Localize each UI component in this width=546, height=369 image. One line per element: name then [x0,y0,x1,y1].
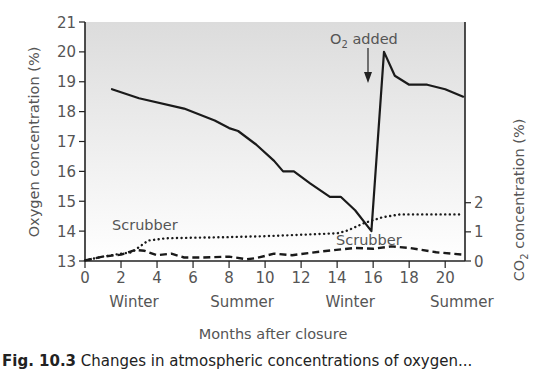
season-label: Summer [210,293,274,311]
y-tick-label: 15 [57,193,76,211]
x-tick-label: 4 [152,269,162,287]
x-tick-label: 14 [328,269,347,287]
season-label: Winter [109,293,159,311]
x-tick-label: 18 [400,269,419,287]
x-tick-label: 20 [436,269,455,287]
y-tick-label: 20 [57,43,76,61]
x-tick-label: 8 [224,269,234,287]
y-axis-title-left: Oxygen concentration (%) [26,47,42,238]
figure-caption: Fig. 10.3 Changes in atmospheric concent… [2,352,472,369]
x-tick-label: 10 [256,269,275,287]
y2-tick-label: 0 [474,253,484,271]
x-tick-label: 12 [292,269,311,287]
x-tick-label: 2 [116,269,126,287]
y-tick-label: 13 [57,253,76,271]
x-tick-label: 0 [80,269,90,287]
scrubber-label-2: Scrubber [336,232,402,248]
y2-tick-label: 2 [474,194,484,212]
caption-text: Changes in atmospheric concentrations of… [76,352,472,369]
y-tick-label: 19 [57,73,76,91]
caption-label: Fig. 10.3 [2,352,76,369]
y-tick-label: 14 [57,223,76,241]
x-tick-label: 6 [188,269,198,287]
y2-tick-label: 1 [474,223,484,241]
season-label: Summer [430,293,494,311]
scrubber-label-1: Scrubber [112,217,178,233]
y-axis-title-right: CO2 concentration (%) [511,119,530,282]
chart: 13141516171819202101202468101214161820Wi… [0,0,546,369]
x-axis-title: Months after closure [199,326,348,342]
x-tick-label: 16 [364,269,383,287]
y-tick-label: 21 [57,14,76,32]
season-label: Winter [325,293,375,311]
y-tick-label: 16 [57,163,76,181]
y-tick-label: 18 [57,103,76,121]
y-tick-label: 17 [57,133,76,151]
